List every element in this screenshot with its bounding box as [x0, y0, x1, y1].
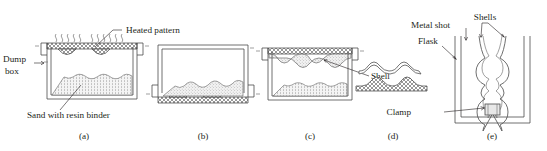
label-dump-box-line2: box [5, 66, 19, 76]
label-clamp: Clamp [387, 107, 412, 117]
caption-d: (d) [388, 131, 399, 141]
leader-clamp [444, 108, 484, 112]
sand-body-a [52, 74, 132, 95]
label-shells: Shells [474, 12, 497, 22]
panel-c: Shell (c) [256, 48, 390, 141]
caption-a: (a) [79, 131, 89, 141]
label-metal-shot: Metal shot [411, 20, 450, 30]
label-heated-pattern: Heated pattern [126, 25, 180, 35]
panel-e: Shells Metal shot Flask Clamp (e) [387, 12, 531, 141]
caption-c: (c) [305, 131, 315, 141]
sand-body-c [273, 83, 347, 96]
leader-flask [442, 46, 456, 59]
clamp-element [485, 104, 500, 115]
stripped-shell-d [359, 62, 421, 74]
caption-b: (b) [198, 131, 209, 141]
shell-molding-figure: Heated pattern Dump box Sand with resin … [0, 0, 547, 151]
heated-pattern-plate [47, 43, 137, 55]
leader-shells [479, 23, 504, 37]
heat-waves-icon [55, 34, 123, 42]
pattern-plate-d [356, 77, 427, 91]
panel-d: (d) [356, 62, 427, 141]
figure-canvas: Heated pattern Dump box Sand with resin … [0, 0, 547, 151]
label-dump-box-line1: Dump [3, 54, 26, 64]
heated-pattern-plate-c [268, 48, 352, 54]
label-flask: Flask [418, 36, 438, 46]
label-sand-with-resin-binder: Sand with resin binder [27, 110, 110, 120]
panel-a: Heated pattern Dump box Sand with resin … [3, 25, 180, 141]
sand-body-b [163, 80, 243, 96]
caption-e: (e) [487, 131, 497, 141]
panel-b: (b) [146, 45, 260, 141]
